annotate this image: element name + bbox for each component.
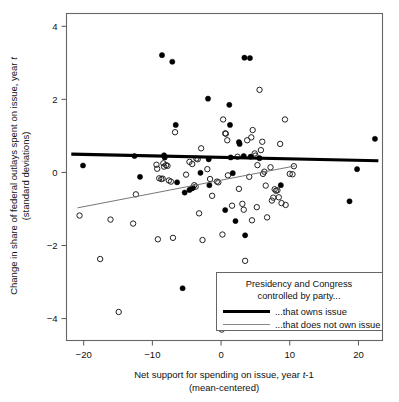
data-point <box>182 190 187 195</box>
data-point <box>236 186 241 191</box>
data-point <box>170 235 175 240</box>
data-point <box>225 138 230 143</box>
plot-svg: 420−2−4 −20−1001020 Change in share of f… <box>0 0 399 402</box>
data-point <box>220 117 225 122</box>
data-point <box>205 166 210 171</box>
data-point <box>207 183 212 188</box>
y-tick-label: −2 <box>47 240 58 251</box>
y-tick-label: −4 <box>47 313 58 324</box>
data-point <box>116 309 121 314</box>
data-point <box>282 117 287 122</box>
data-point <box>354 167 359 172</box>
data-point <box>277 141 282 146</box>
x-axis-title-line2: (mean-centered) <box>189 382 259 393</box>
x-tick-label: 0 <box>218 349 223 360</box>
x-axis: −20−1001020 <box>76 341 364 360</box>
data-point <box>233 218 238 223</box>
data-point <box>180 286 185 291</box>
data-point <box>257 87 262 92</box>
data-point <box>242 258 247 263</box>
data-point <box>254 204 259 209</box>
x-axis-title-line1: Net support for spending on issue, year … <box>134 369 314 380</box>
data-point <box>137 174 142 179</box>
y-axis-title-line1: Change in share of federal outlays spent… <box>8 57 19 295</box>
data-point <box>260 139 265 144</box>
data-point <box>241 207 246 212</box>
data-point <box>229 203 234 208</box>
legend-label-does-not-own-issue: ...that does not own issue <box>275 320 380 330</box>
series-owns-issue <box>80 53 377 291</box>
legend: Presidency and Congress controlled by pa… <box>217 273 383 331</box>
data-point <box>247 55 252 60</box>
regression-line <box>71 154 378 161</box>
data-point <box>173 122 178 127</box>
data-point <box>230 171 235 176</box>
x-tick-label: −10 <box>144 349 160 360</box>
data-point <box>108 217 113 222</box>
data-point <box>223 207 228 212</box>
data-point <box>249 135 254 140</box>
data-point <box>183 172 188 177</box>
data-point <box>155 237 160 242</box>
y-axis-title-line2: (standard deviations) <box>20 132 31 221</box>
data-point <box>172 130 177 135</box>
legend-title-line2: controlled by party... <box>257 291 340 301</box>
legend-title-line1: Presidency and Congress <box>246 279 353 289</box>
x-tick-label: 20 <box>353 349 364 360</box>
data-point <box>276 195 281 200</box>
regression-lines <box>71 154 378 208</box>
data-point <box>243 233 248 238</box>
data-point <box>225 173 230 178</box>
data-point <box>237 141 242 146</box>
data-point <box>77 213 82 218</box>
data-point <box>159 53 164 58</box>
data-point <box>205 96 210 101</box>
data-point <box>372 136 377 141</box>
x-tick-label: 10 <box>284 349 295 360</box>
data-point <box>278 183 283 188</box>
x-tick-label: −20 <box>76 349 92 360</box>
y-tick-label: 0 <box>52 167 57 178</box>
data-point <box>249 218 254 223</box>
data-point <box>268 165 273 170</box>
data-point <box>263 183 268 188</box>
data-point <box>97 256 102 261</box>
data-point <box>207 176 212 181</box>
data-point <box>255 162 260 167</box>
data-point <box>200 237 205 242</box>
data-point <box>264 215 269 220</box>
data-point <box>80 163 85 168</box>
data-point <box>250 127 255 132</box>
data-point <box>220 232 225 237</box>
data-point <box>130 221 135 226</box>
data-point <box>198 146 203 151</box>
legend-label-owns-issue: ...that owns issue <box>275 307 347 317</box>
y-tick-label: 2 <box>52 94 57 105</box>
data-point <box>240 201 245 206</box>
y-axis: 420−2−4 <box>47 21 67 324</box>
y-tick-label: 4 <box>52 21 57 32</box>
data-point <box>198 170 203 175</box>
data-point <box>242 55 247 60</box>
data-point <box>175 180 180 185</box>
data-point <box>209 193 214 198</box>
data-point <box>258 147 263 152</box>
data-point <box>170 59 175 64</box>
scatter-plot-figure: 420−2−4 −20−1001020 Change in share of f… <box>0 0 399 402</box>
data-point <box>227 122 232 127</box>
data-point <box>347 199 352 204</box>
data-point <box>196 211 201 216</box>
data-point <box>227 102 232 107</box>
